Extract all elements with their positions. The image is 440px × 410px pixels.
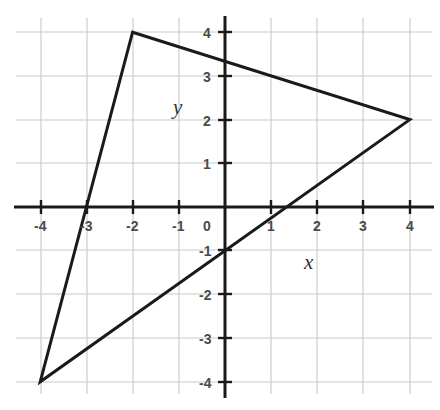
axes [14, 16, 434, 398]
y-tick-label-minus1: -1 [199, 244, 211, 258]
y-tick-label-1: 1 [203, 157, 211, 171]
graph-figure: -4 -3 -2 -1 0 1 2 3 4 4 3 2 1 -1 -2 -3 -… [0, 0, 440, 410]
y-tick-label-2: 2 [203, 114, 211, 128]
x-tick-label-2: 2 [313, 219, 321, 233]
x-tick-label-minus4: -4 [34, 219, 46, 233]
coordinate-plane-svg [0, 0, 440, 410]
x-tick-label-4: 4 [406, 219, 414, 233]
y-tick-label-minus4: -4 [199, 376, 211, 390]
y-axis-label: y [173, 97, 182, 118]
x-tick-label-1: 1 [267, 219, 275, 233]
y-tick-label-3: 3 [203, 70, 211, 84]
x-tick-label-3: 3 [359, 219, 367, 233]
x-tick-label-minus2: -2 [126, 219, 138, 233]
x-tick-label-zero: 0 [203, 219, 211, 233]
x-tick-label-minus1: -1 [172, 219, 184, 233]
y-tick-label-4: 4 [203, 26, 211, 40]
x-tick-label-minus3: -3 [80, 219, 92, 233]
x-axis-label: x [304, 252, 313, 273]
y-tick-label-minus2: -2 [199, 288, 211, 302]
y-tick-label-minus3: -3 [199, 332, 211, 346]
